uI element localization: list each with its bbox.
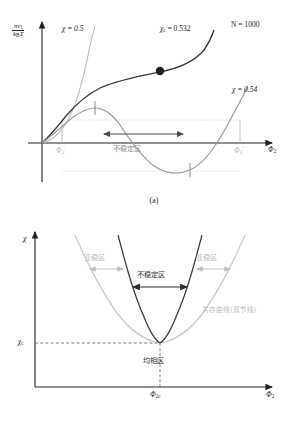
panel-a-plot bbox=[0, 0, 308, 217]
label-chi-c: χc = 0.532 bbox=[160, 25, 190, 33]
label-metastable-right: 亚稳区 bbox=[196, 254, 217, 261]
panel-a-yaxis-label: πv1 kBT bbox=[12, 23, 24, 39]
label-metastable-left: 亚稳区 bbox=[84, 254, 105, 261]
label-chi-0-5: χ = 0.5 bbox=[62, 25, 84, 33]
curve-chi-c bbox=[42, 30, 214, 143]
panel-a-param-label: N = 1000 bbox=[231, 21, 259, 29]
panel-b-yaxis-tick-label: χc bbox=[18, 338, 24, 346]
label-homogeneous-region: 均相区 bbox=[143, 357, 164, 364]
curve-coexistence-binodal bbox=[75, 235, 245, 343]
label-unstable-region-a: 不稳定区 bbox=[113, 145, 141, 152]
label-chi-0-54: χ = 0.54 bbox=[232, 86, 257, 94]
panel-b-plot bbox=[0, 217, 308, 434]
panel-a-caption: (a) bbox=[0, 196, 308, 205]
label-coexistence-curve: 共存曲线(双节线) bbox=[202, 307, 256, 314]
panel-a: πv1 kBT N = 1000 χ = 0.5 χc = 0.532 χ = … bbox=[0, 0, 308, 217]
curve-chi-0-5 bbox=[42, 26, 95, 143]
curve-spinodal bbox=[118, 235, 202, 343]
panel-a-xaxis-label: Φ2 bbox=[268, 146, 276, 154]
panel-b-yaxis-label: χ bbox=[23, 235, 27, 243]
critical-point-marker bbox=[156, 67, 164, 75]
figure-container: πv1 kBT N = 1000 χ = 0.5 χc = 0.532 χ = … bbox=[0, 0, 308, 434]
panel-b-xaxis-label: Φ2 bbox=[266, 391, 274, 399]
label-phi-prime: Φ2′ bbox=[56, 147, 65, 155]
panel-b: χ χc 不稳定区 亚稳区 亚稳区 共存曲线(双节线) 均相区 Φ2c Φ2 (… bbox=[0, 217, 308, 434]
label-phi-double-prime: Φ2″ bbox=[234, 147, 244, 155]
panel-b-xaxis-tick-label: Φ2c bbox=[150, 391, 161, 399]
label-unstable-region-b: 不稳定区 bbox=[137, 271, 165, 278]
curve-chi-0-54 bbox=[42, 86, 248, 173]
